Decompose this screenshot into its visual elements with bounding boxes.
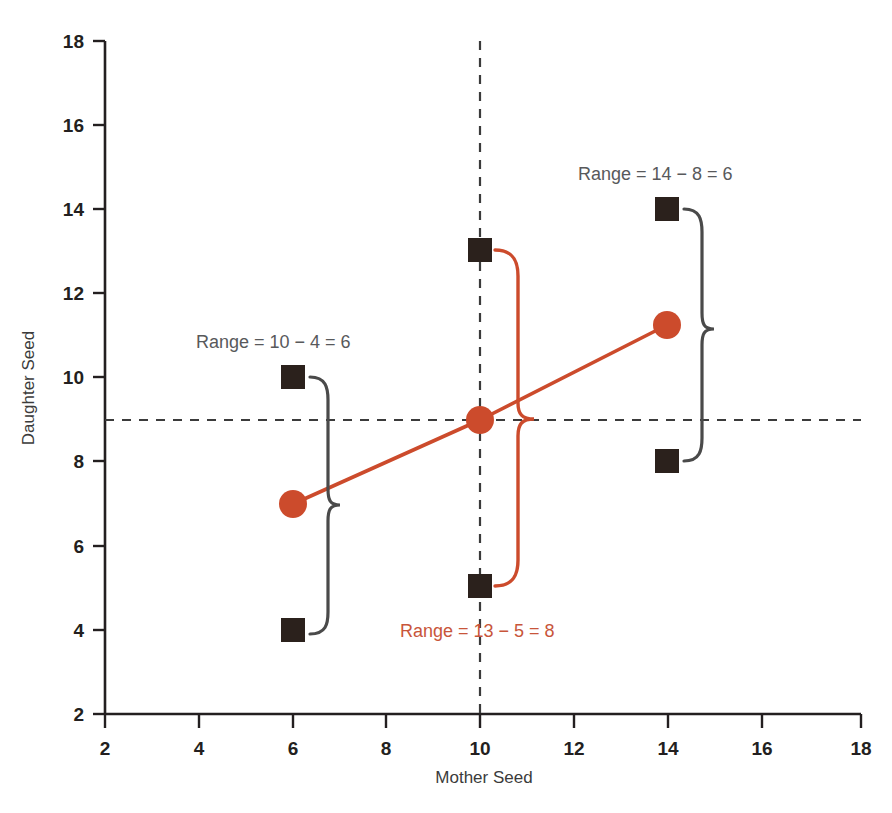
x-tick-label-2: 2 <box>100 738 111 759</box>
data-point-square-10-5[interactable] <box>468 574 492 598</box>
x-tick-label-4: 4 <box>194 738 205 759</box>
y-tick-label-4: 4 <box>73 620 84 641</box>
data-point-circle-10-9[interactable] <box>466 406 494 434</box>
data-point-square-6-10[interactable] <box>281 365 305 389</box>
y-tick-label-2: 2 <box>73 704 84 725</box>
data-point-circle-6-7[interactable] <box>279 490 307 518</box>
reference-lines <box>105 41 861 714</box>
annotation-range-center: Range = 13 − 5 = 8 <box>400 621 555 641</box>
y-tick-label-16: 16 <box>63 115 84 136</box>
x-tick-label-10: 10 <box>469 738 490 759</box>
x-axis-tick-labels: 2 4 6 8 10 12 14 16 18 <box>100 738 872 759</box>
y-axis-ticks <box>93 41 105 714</box>
y-tick-label-14: 14 <box>63 199 85 220</box>
brace-right-range <box>684 209 714 461</box>
x-tick-label-18: 18 <box>850 738 871 759</box>
y-tick-label-18: 18 <box>63 31 84 52</box>
chart-canvas: 18 16 14 12 10 8 6 4 2 2 4 6 8 <box>0 0 892 813</box>
x-tick-label-16: 16 <box>751 738 772 759</box>
y-axis-title: Daughter Seed <box>19 331 38 445</box>
data-point-square-14-8[interactable] <box>655 449 679 473</box>
x-axis-ticks <box>105 714 861 728</box>
x-tick-label-14: 14 <box>657 738 679 759</box>
annotation-range-left: Range = 10 − 4 = 6 <box>196 332 351 352</box>
x-tick-label-8: 8 <box>381 738 392 759</box>
y-tick-label-8: 8 <box>73 451 84 472</box>
y-tick-label-6: 6 <box>73 536 84 557</box>
data-point-square-6-4[interactable] <box>281 618 305 642</box>
x-tick-label-12: 12 <box>563 738 584 759</box>
y-tick-label-10: 10 <box>63 367 84 388</box>
data-point-square-10-13[interactable] <box>468 238 492 262</box>
y-tick-label-12: 12 <box>63 283 84 304</box>
scatter-plot: 18 16 14 12 10 8 6 4 2 2 4 6 8 <box>0 0 892 813</box>
y-axis-tick-labels: 18 16 14 12 10 8 6 4 2 <box>63 31 85 725</box>
x-tick-label-6: 6 <box>288 738 299 759</box>
data-point-square-14-14[interactable] <box>655 197 679 221</box>
data-point-circle-14-11[interactable] <box>653 311 681 339</box>
x-axis-title: Mother Seed <box>435 768 532 787</box>
brace-left-range <box>310 377 340 634</box>
axis-spines <box>105 41 861 714</box>
brace-center-range <box>495 250 534 586</box>
annotation-range-right: Range = 14 − 8 = 6 <box>578 164 733 184</box>
